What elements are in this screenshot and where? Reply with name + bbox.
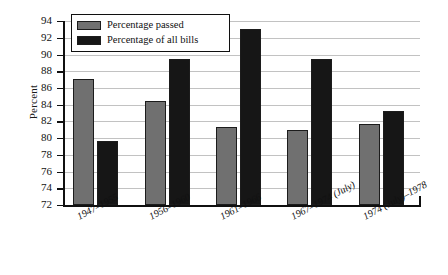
y-tick-label: 90: [12, 49, 52, 60]
y-tick-label: 84: [12, 99, 52, 110]
y-tick-label: 92: [12, 32, 52, 43]
y-tick-label: 72: [12, 199, 52, 210]
legend-swatch-percentage-passed: [77, 21, 101, 30]
bar-chart: Percent 949290888684828078767472 1947–19…: [0, 0, 448, 275]
legend-swatch-percentage-of-all-bills: [77, 36, 101, 45]
chart-legend: Percentage passed Percentage of all bill…: [71, 14, 230, 52]
bar: [311, 59, 332, 205]
y-tick-label: 80: [12, 132, 52, 143]
bar: [240, 29, 261, 205]
y-tick-label: 88: [12, 65, 52, 76]
y-tick-label: 94: [12, 15, 52, 26]
legend-label-percentage-passed: Percentage passed: [107, 20, 184, 31]
y-tick-label: 76: [12, 166, 52, 177]
y-tick-label: 82: [12, 115, 52, 126]
bar: [287, 130, 308, 205]
bar: [216, 127, 237, 205]
x-axis-right-cap: [419, 196, 421, 206]
bar: [169, 59, 190, 205]
legend-item-percentage-of-all-bills: Percentage of all bills: [77, 33, 224, 48]
bar: [145, 101, 166, 206]
y-tick-label: 86: [12, 82, 52, 93]
bar: [359, 124, 380, 205]
y-tick-label: 78: [12, 149, 52, 160]
bar: [73, 79, 94, 205]
y-axis-line: [63, 21, 65, 206]
y-tick-label: 74: [12, 182, 52, 193]
legend-item-percentage-passed: Percentage passed: [77, 18, 224, 33]
legend-label-percentage-of-all-bills: Percentage of all bills: [107, 35, 198, 46]
